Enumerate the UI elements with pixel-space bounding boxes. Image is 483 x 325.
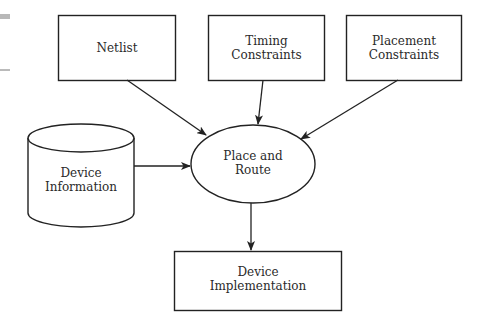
timing-constraints-label: Timing Constraints bbox=[208, 15, 325, 81]
place-and-route-label: Place and Route bbox=[191, 144, 315, 182]
placement-constraints-label: Placement Constraints bbox=[346, 15, 462, 81]
implementation-label-line-2: Implementation bbox=[210, 279, 307, 293]
arrow-placement-to-place-route bbox=[301, 80, 398, 139]
arrow-timing-to-place-route bbox=[258, 80, 263, 124]
implementation-label-line-1: Device bbox=[237, 265, 278, 279]
edge-artifact-bar bbox=[0, 14, 10, 19]
timing-label-line-1: Timing bbox=[245, 34, 287, 48]
placement-label-line-1: Placement bbox=[372, 34, 436, 48]
place-route-label-line-1: Place and bbox=[223, 149, 282, 163]
netlist-label-line-1: Netlist bbox=[96, 41, 137, 55]
device-information-label: Device Information bbox=[28, 160, 134, 200]
device-info-label-line-1: Device bbox=[60, 166, 101, 180]
netlist-label: Netlist bbox=[58, 15, 176, 81]
placement-label-line-2: Constraints bbox=[369, 48, 440, 62]
place-route-label-line-2: Route bbox=[235, 163, 271, 177]
timing-label-line-2: Constraints bbox=[231, 48, 302, 62]
device-implementation-label: Device Implementation bbox=[174, 251, 342, 307]
device-info-label-line-2: Information bbox=[45, 180, 117, 194]
arrow-netlist-to-place-route bbox=[127, 80, 206, 135]
